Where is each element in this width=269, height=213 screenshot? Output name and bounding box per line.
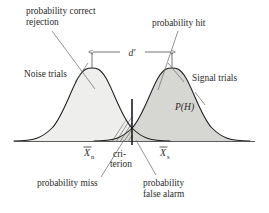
- label-criterion-line2: terion: [110, 159, 132, 169]
- label-probability-false-alarm-line1: probability: [143, 178, 184, 188]
- mean-signal-base: X: [159, 147, 167, 158]
- label-signal-trials: Signal trials: [192, 73, 237, 83]
- leader-correct-rejection: [52, 31, 95, 89]
- leader-probability-false-alarm: [136, 140, 156, 175]
- label-probability-miss: probability miss: [37, 178, 98, 188]
- label-noise-trials: Noise trials: [24, 69, 67, 79]
- label-probability-correct-rejection-line1: probability correct: [26, 6, 96, 16]
- mean-noise-subscript: n: [91, 153, 95, 160]
- label-mean-noise: X n: [83, 147, 95, 160]
- signal-detection-figure: d′ probability correct rejection probabi…: [0, 0, 269, 213]
- mean-signal-subscript: s: [167, 153, 170, 160]
- label-p-hit: P(H): [174, 101, 194, 113]
- label-probability-hit: probability hit: [152, 18, 206, 28]
- d-prime-dimension: d′: [92, 47, 172, 69]
- label-probability-correct-rejection-line2: rejection: [26, 17, 59, 27]
- label-probability-false-alarm-line2: false alarm: [143, 189, 185, 199]
- annotation-texts: probability correct rejection probabilit…: [24, 6, 237, 199]
- d-prime-label: d′: [129, 47, 137, 58]
- label-mean-signal: X s: [159, 147, 170, 160]
- mean-noise-base: X: [83, 147, 91, 158]
- label-criterion-line1: cri-: [113, 149, 126, 159]
